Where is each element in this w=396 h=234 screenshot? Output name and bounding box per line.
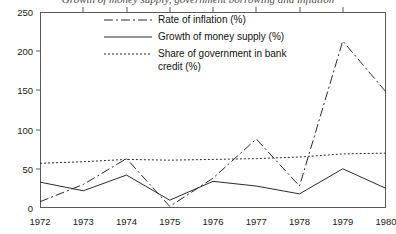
chart-figure: Growth of money supply, government borro… [0, 0, 396, 234]
y-tick-label: 150 [17, 85, 33, 96]
x-tick-label: 1972 [29, 216, 50, 227]
x-tick-mark [213, 7, 214, 12]
x-tick-mark [342, 7, 343, 12]
y-tick-label: 250 [17, 7, 33, 18]
legend-label-inflation: Rate of inflation (%) [158, 14, 246, 27]
x-tick-label: 1975 [159, 216, 180, 227]
chart-legend: Rate of inflation (%) Growth of money su… [104, 14, 334, 77]
x-tick-mark [126, 7, 127, 12]
x-tick-mark [256, 7, 257, 12]
x-tick-label: 1973 [73, 216, 94, 227]
y-tick-label: 200 [17, 46, 33, 57]
y-tick-mark [36, 90, 41, 91]
dash-dot-line-icon [104, 14, 152, 26]
legend-label-money-supply: Growth of money supply (%) [158, 31, 284, 44]
legend-item-inflation: Rate of inflation (%) [104, 14, 334, 28]
y-tick-mark [36, 51, 41, 52]
series-line-solid [40, 169, 386, 200]
x-tick-label: 1974 [116, 216, 137, 227]
x-tick-label: 1977 [246, 216, 267, 227]
legend-item-money-supply: Growth of money supply (%) [104, 31, 334, 45]
y-tick-label: 50 [22, 163, 33, 174]
series-line-dotted [40, 153, 386, 163]
x-tick-label: 1976 [202, 216, 223, 227]
chart-title: Growth of money supply, government borro… [0, 0, 396, 6]
y-tick-mark [36, 168, 41, 169]
x-tick-label: 1980 [375, 216, 396, 227]
dotted-line-icon [104, 48, 152, 60]
legend-label-government-share: Share of government in bank credit (%) [158, 48, 286, 73]
x-tick-mark [299, 7, 300, 12]
legend-item-government-share: Share of government in bank credit (%) [104, 48, 334, 74]
x-tick-label: 1978 [289, 216, 310, 227]
x-tick-mark [169, 7, 170, 12]
y-tick-label: 100 [17, 124, 33, 135]
x-tick-mark [83, 7, 84, 12]
x-tick-label: 1979 [332, 216, 353, 227]
y-tick-label: 0 [28, 203, 33, 214]
y-tick-mark [36, 129, 41, 130]
solid-line-icon [104, 31, 152, 43]
